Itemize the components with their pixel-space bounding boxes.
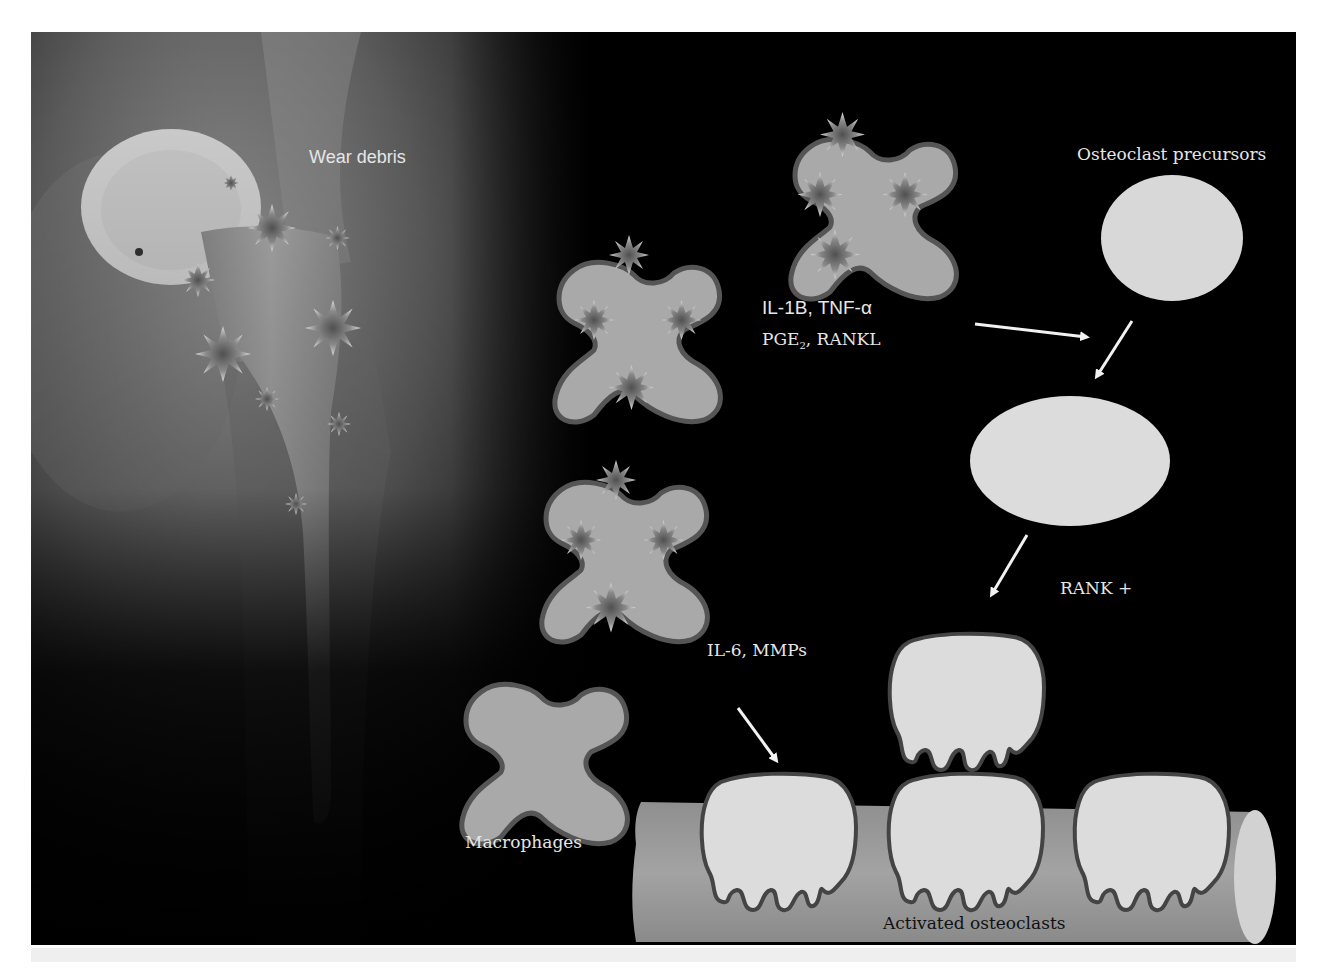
cytokines-label-line1: IL-1B, TNF-α bbox=[762, 297, 872, 319]
activated-osteoclasts-label: Activated osteoclasts bbox=[883, 913, 1065, 933]
activated-osteoclast-2 bbox=[889, 774, 1043, 910]
osteoclast-precursor-cell bbox=[1101, 175, 1243, 301]
osteoclast-precursors-label: Osteoclast precursors bbox=[1077, 144, 1266, 164]
activated-osteoclast-3 bbox=[1075, 774, 1229, 910]
arrow-il6-to-osteoclasts bbox=[738, 708, 776, 760]
rankl-text: , RANKL bbox=[806, 329, 881, 349]
figure-canvas bbox=[31, 32, 1296, 945]
pge-text: PGE bbox=[762, 329, 799, 349]
activated-osteoclast-1 bbox=[702, 774, 856, 910]
figure-bottom-margin bbox=[31, 948, 1296, 962]
macrophages-label: Macrophages bbox=[465, 832, 582, 852]
cytokines-label-line2: PGE2, RANKL bbox=[762, 329, 881, 351]
il6-mmps-label: IL-6, MMPs bbox=[707, 640, 807, 660]
arrow-cytokines-to-precursors bbox=[975, 324, 1086, 337]
osteoclast-detaching bbox=[890, 634, 1044, 770]
arrow-precursor-to-rank bbox=[1097, 321, 1132, 376]
arrow-rank-to-osteoclast bbox=[992, 535, 1027, 594]
macrophage-with-debris-2 bbox=[791, 112, 957, 299]
osteolysis-figure: Wear debris IL-1B, TNF-α PGE2, RANKL Ost… bbox=[31, 32, 1296, 945]
wear-debris-label: Wear debris bbox=[309, 147, 406, 168]
rank-positive-precursor-cell bbox=[970, 396, 1170, 526]
rank-plus-label: RANK + bbox=[1060, 578, 1132, 598]
